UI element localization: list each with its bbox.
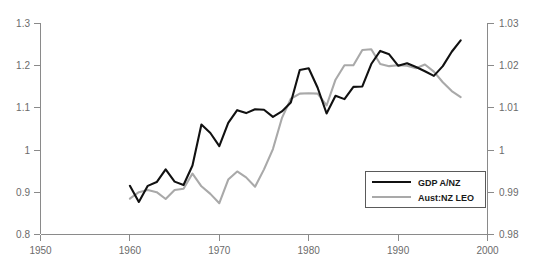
- x-tick-label-2000: 2000: [476, 245, 499, 256]
- chart-container: 1.3 1.2 1.1 1 0.9 0.8 1.03 1.02 1.01 1 0…: [0, 0, 535, 269]
- right-tick-label-0-99: 0.99: [499, 187, 519, 198]
- left-tick-label-1: 1: [24, 145, 30, 156]
- left-tick-label-1-1: 1.1: [16, 102, 30, 113]
- x-tick-label-1960: 1960: [119, 245, 142, 256]
- x-tick-label-1980: 1980: [298, 245, 321, 256]
- x-tick-label-1990: 1990: [387, 245, 410, 256]
- x-tick-label-1950: 1950: [29, 245, 52, 256]
- legend-label-gdp-a-nz: GDP A/NZ: [418, 178, 461, 188]
- x-tick-label-1970: 1970: [208, 245, 231, 256]
- right-tick-label-1-03: 1.03: [499, 18, 519, 29]
- right-tick-label-1-02: 1.02: [499, 60, 519, 71]
- right-tick-label-1-01: 1.01: [499, 102, 519, 113]
- line-chart: 1.3 1.2 1.1 1 0.9 0.8 1.03 1.02 1.01 1 0…: [0, 0, 535, 269]
- bottom-axis-ticks: 1950 1960 1970 1980 1990 2000: [29, 235, 499, 256]
- left-axis-ticks: 1.3 1.2 1.1 1 0.9 0.8: [16, 18, 40, 240]
- left-tick-label-1-3: 1.3: [16, 18, 30, 29]
- chart-legend: GDP A/NZ Aust:NZ LEO: [366, 172, 486, 208]
- left-tick-label-0-9: 0.9: [16, 187, 30, 198]
- left-tick-label-1-2: 1.2: [16, 60, 30, 71]
- legend-label-aust-nz-leo: Aust:NZ LEO: [418, 193, 474, 203]
- right-tick-label-1: 1: [499, 145, 505, 156]
- right-axis-ticks: 1.03 1.02 1.01 1 0.99 0.98: [488, 18, 519, 240]
- left-tick-label-0-8: 0.8: [16, 229, 30, 240]
- right-tick-label-0-98: 0.98: [499, 229, 519, 240]
